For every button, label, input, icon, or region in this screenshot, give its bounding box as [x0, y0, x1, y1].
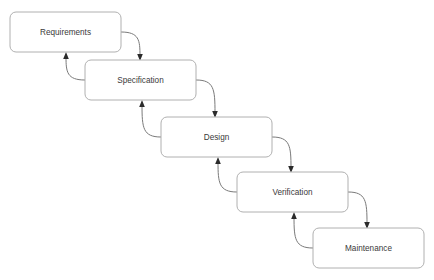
- stage-box-design[interactable]: Design: [161, 117, 272, 157]
- arrow-verification-to-maintenance: [348, 192, 370, 229]
- arrow-verification-to-design: [215, 157, 237, 192]
- arrow-requirements-to-specification: [121, 32, 143, 61]
- arrow-design-to-specification: [139, 100, 161, 137]
- waterfall-diagram: Requirements Specification Design Verifi…: [0, 0, 434, 280]
- arrowhead-up-icon: [291, 212, 297, 219]
- stage-label-verification: Verification: [272, 188, 312, 197]
- stage-box-verification[interactable]: Verification: [237, 172, 348, 212]
- waterfall-diagram-svg: Requirements Specification Design Verifi…: [0, 0, 434, 280]
- stage-box-specification[interactable]: Specification: [85, 60, 196, 100]
- arrowhead-up-icon: [139, 100, 145, 107]
- stage-label-requirements: Requirements: [40, 28, 91, 37]
- stage-label-maintenance: Maintenance: [345, 244, 392, 253]
- stage-label-design: Design: [204, 133, 230, 142]
- stage-box-requirements[interactable]: Requirements: [10, 12, 121, 52]
- arrow-design-to-verification: [272, 137, 294, 173]
- arrowhead-up-icon: [215, 157, 221, 164]
- arrow-specification-to-design: [196, 80, 218, 118]
- stage-label-specification: Specification: [117, 76, 164, 85]
- stage-box-maintenance[interactable]: Maintenance: [313, 228, 424, 268]
- arrow-maintenance-to-verification: [291, 212, 313, 248]
- arrowhead-up-icon: [63, 52, 69, 59]
- arrow-specification-to-requirements: [63, 52, 85, 80]
